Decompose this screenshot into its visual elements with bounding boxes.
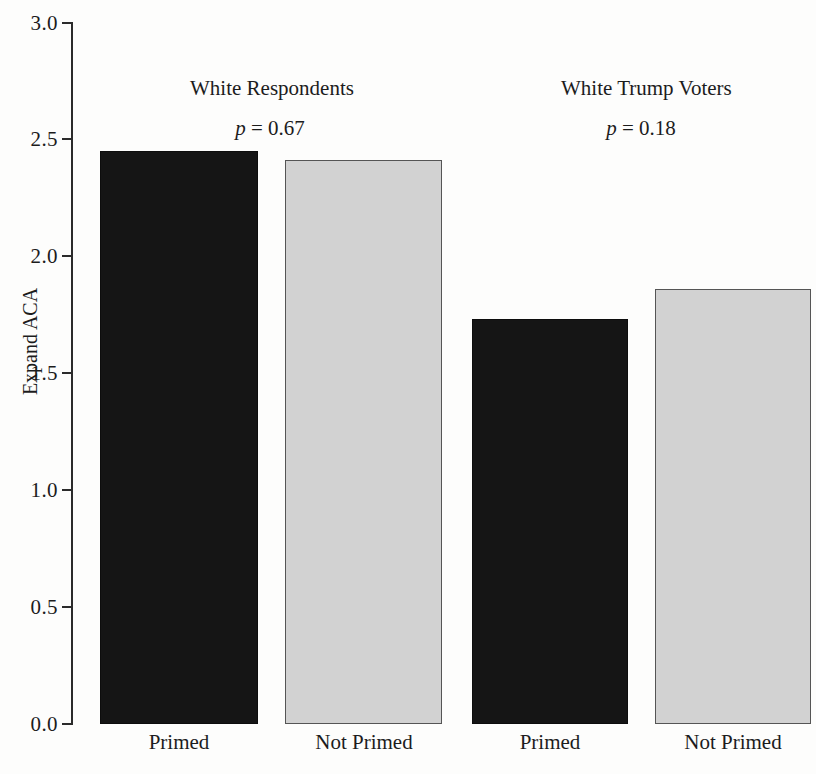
x-label-bar-0: Primed [99, 732, 259, 753]
y-tick-label-0: 0.0 [0, 714, 58, 735]
y-axis-title: Expand ACA [19, 252, 42, 432]
x-label-bar-1: Not Primed [284, 732, 444, 753]
bar-chart-figure: 0.0 0.5 1.0 1.5 2.0 2.5 3.0 Expand ACA W… [0, 0, 816, 774]
bar-white-trump-voters-primed [472, 319, 628, 724]
y-tick-mark-0 [62, 723, 72, 725]
bar-white-trump-voters-not-primed [655, 289, 811, 724]
p-text-1: = 0.18 [617, 116, 676, 140]
p-symbol-0: p [235, 116, 246, 140]
bar-white-respondents-primed [100, 151, 258, 724]
y-tick-mark-5 [62, 138, 72, 140]
y-tick-label-2: 1.0 [0, 480, 58, 501]
y-tick-label-5: 2.5 [0, 129, 58, 150]
p-text-0: = 0.67 [246, 116, 305, 140]
group-title-white-trump-voters: White Trump Voters [561, 78, 721, 99]
y-tick-label-6: 3.0 [0, 13, 58, 34]
y-tick-mark-1 [62, 606, 72, 608]
x-label-bar-3: Not Primed [653, 732, 813, 753]
p-symbol-1: p [606, 116, 617, 140]
bar-white-respondents-not-primed [285, 160, 442, 724]
x-label-bar-2: Primed [470, 732, 630, 753]
y-tick-mark-3 [62, 372, 72, 374]
group-title-white-respondents: White Respondents [190, 78, 350, 99]
y-tick-mark-6 [62, 22, 72, 24]
group-pvalue-white-trump-voters: p = 0.18 [561, 118, 721, 139]
group-pvalue-white-respondents: p = 0.67 [190, 118, 350, 139]
y-tick-mark-4 [62, 255, 72, 257]
y-tick-mark-2 [62, 489, 72, 491]
y-tick-label-1: 0.5 [0, 597, 58, 618]
